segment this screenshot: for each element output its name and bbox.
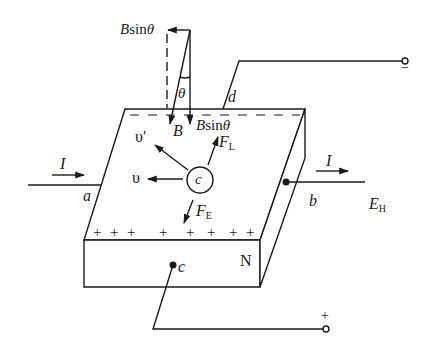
v-prime-label: υ′ (135, 129, 146, 145)
positive-charge: + (229, 225, 237, 240)
positive-charge: + (207, 225, 215, 240)
terminal-b-label: b (309, 193, 317, 209)
b-sin-theta-plate-label: Bsinθ (196, 118, 230, 133)
diagram-drawing (0, 0, 423, 354)
theta-arc (180, 77, 190, 78)
terminal-minus-label: − (401, 61, 409, 75)
b-label: B (173, 123, 183, 139)
terminal-c-label: c (178, 259, 185, 275)
current-right-label: I (326, 153, 331, 169)
terminal-a-label: a (83, 188, 91, 204)
b-sin-theta-top-label: Bsinθ (120, 22, 154, 37)
wire-d (223, 61, 402, 109)
n-type-label: N (240, 253, 252, 269)
electric-force-label: FE (196, 203, 212, 221)
positive-charge: + (93, 225, 101, 240)
v-label: υ (132, 170, 140, 186)
carrier-label: c (195, 172, 202, 187)
theta-label: θ (178, 86, 185, 101)
d-label: d (228, 89, 236, 105)
terminal-b-dot (283, 179, 290, 186)
current-left-label: I (60, 156, 65, 172)
hall-field-label: EH (369, 196, 386, 214)
positive-charge: + (127, 225, 135, 240)
positive-charge: + (159, 225, 167, 240)
positive-charge: + (110, 225, 118, 240)
lorentz-force-label: FL (219, 134, 235, 152)
positive-charge: + (186, 225, 194, 240)
terminal-c-dot (170, 262, 177, 269)
terminal-plus-circle[interactable] (323, 326, 329, 332)
terminal-plus-label: + (321, 309, 329, 323)
positive-charge: + (246, 225, 254, 240)
hall-effect-diagram: Bsinθ θ B Bsinθ d υ′ υ FL FE c I I a b E… (0, 0, 423, 354)
